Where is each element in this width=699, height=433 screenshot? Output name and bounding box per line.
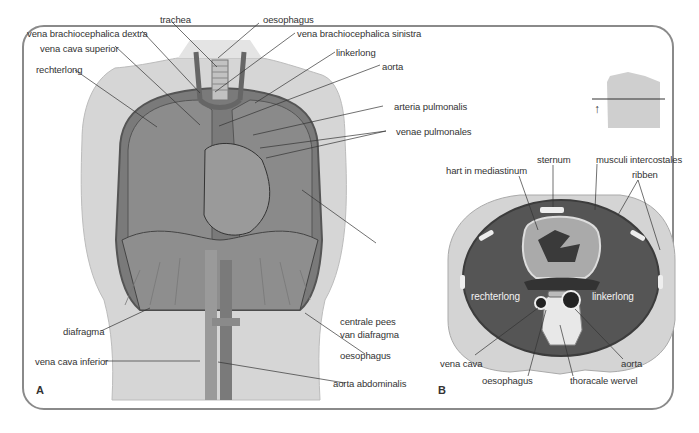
label-oesophagus-bottom: oesophagus <box>340 350 391 361</box>
aorta-vessel <box>562 291 580 309</box>
label-musculi-intercostales: musculi intercostales <box>596 154 682 165</box>
heart <box>204 143 270 235</box>
label-vena-cava-superior: vena cava superior <box>40 43 118 54</box>
label-arteria-pulmonalis: arteria pulmonalis <box>394 101 467 112</box>
inset-torso <box>592 72 665 128</box>
panel-letter-b: B <box>438 384 446 396</box>
neck <box>178 40 262 58</box>
label-centrale-pees-line2: van diafragma <box>340 329 399 340</box>
label-linkerlong-b: linkerlong <box>592 291 634 302</box>
vena-cava-vessel <box>535 297 547 309</box>
label-aorta-a: aorta <box>382 61 403 72</box>
aorta-abdominalis-vessel <box>220 260 232 400</box>
anatomy-illustration <box>0 0 699 433</box>
label-oesophagus-top: oesophagus <box>263 14 314 25</box>
label-oesophagus-b: oesophagus <box>482 375 533 386</box>
label-vena-brachiocephalica-sinistra: vena brachiocephalica sinistra <box>297 28 421 39</box>
label-rechterlong-b: rechterlong <box>471 291 520 302</box>
panel-a-torso <box>81 40 346 400</box>
panel-b-cross-section <box>448 195 675 374</box>
label-diafragma: diafragma <box>63 326 104 337</box>
label-vena-cava-inferior: vena cava inferior <box>35 356 108 367</box>
label-vena-cava-b: vena cava <box>440 358 482 369</box>
label-sternum: sternum <box>537 154 571 165</box>
label-aorta-abdominalis: aorta abdominalis <box>333 378 406 389</box>
label-trachea: trachea <box>160 14 191 25</box>
label-hart-in-mediastinum: hart in mediastinum <box>446 165 527 176</box>
label-thoracale-wervel: thoracale wervel <box>570 375 638 386</box>
label-aorta-b: aorta <box>621 358 642 369</box>
label-rechterlong-a: rechterlong <box>36 64 82 75</box>
right-lung <box>128 100 212 248</box>
panel-letter-a: A <box>36 384 44 396</box>
mediastinum <box>523 217 600 278</box>
inset-up-arrow-icon: ↑ <box>594 104 600 115</box>
label-ribben: ribben <box>632 169 658 180</box>
label-vena-brachiocephalica-dextra: vena brachiocephalica dextra <box>27 28 148 39</box>
label-venae-pulmonales: venae pulmonales <box>396 126 472 137</box>
label-linkerlong-a: linkerlong <box>336 47 376 58</box>
label-centrale-pees-line1: centrale pees <box>340 316 396 327</box>
